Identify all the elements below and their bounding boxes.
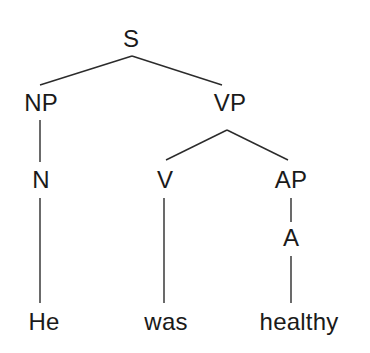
leaf-word-healthy: healthy — [260, 310, 339, 334]
leaf-word-was: was — [144, 310, 187, 334]
node-vp: VP — [214, 91, 246, 115]
node-np: NP — [24, 91, 58, 115]
node-a: A — [283, 226, 299, 250]
node-v: V — [157, 168, 173, 192]
tree-edge-s-vp — [132, 56, 222, 85]
syntax-tree-diagram: S NP VP N V AP A He was healthy — [0, 0, 370, 353]
node-n: N — [32, 168, 50, 192]
tree-edge-s-np — [40, 56, 132, 85]
tree-edge-vp-v — [166, 130, 227, 160]
leaf-word-he: He — [28, 310, 59, 334]
node-ap: AP — [275, 168, 307, 192]
node-s: S — [123, 27, 139, 51]
tree-edges-layer — [0, 0, 370, 353]
tree-edge-vp-ap — [227, 130, 288, 160]
